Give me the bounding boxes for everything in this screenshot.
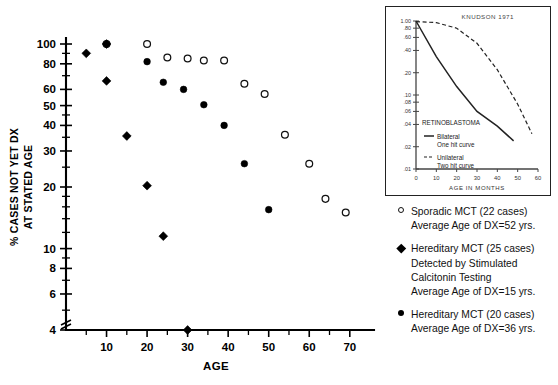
data-point-hereditary-stimulated	[102, 40, 111, 49]
y-tick-label: 50	[43, 100, 56, 112]
inset-y-tick-label: .60	[404, 34, 412, 40]
inset-y-tick-label: .02	[404, 144, 412, 150]
inset-x-tick-label: 30	[474, 175, 480, 181]
main-plot-group: 1008060504030201086410203040506070AGE% C…	[8, 38, 374, 372]
main-scatter-chart: 1008060504030201086410203040506070AGE% C…	[0, 0, 380, 385]
x-tick-label: 70	[343, 341, 356, 353]
legend-label-hereditary-stimulated: Hereditary MCT (25 cases) Detected by St…	[411, 242, 535, 299]
data-point-sporadic	[144, 41, 151, 48]
inset-legend-bilateral: Bilateral	[437, 133, 460, 140]
y-axis-title-line1: % CASES NOT YET DX	[8, 128, 20, 246]
main-chart-svg: 1008060504030201086410203040506070AGE% C…	[0, 0, 380, 385]
data-point-sporadic	[342, 209, 349, 216]
data-point-hereditary	[221, 122, 228, 129]
data-point-sporadic	[282, 131, 289, 138]
x-tick-label: 40	[222, 341, 235, 353]
inset-title: KNUDSON 1971	[462, 13, 514, 20]
data-point-sporadic	[200, 57, 207, 64]
data-point-hereditary-stimulated	[82, 49, 91, 58]
data-point-hereditary-stimulated	[183, 326, 192, 335]
y-tick-label: 80	[43, 58, 56, 70]
inset-y-tick-label: .06	[404, 108, 412, 114]
data-point-hereditary	[201, 101, 208, 108]
y-tick-label: 20	[43, 181, 56, 193]
legend-line: Hereditary MCT (20 cases)	[411, 308, 535, 322]
inset-y-tick-label: 1.00	[401, 18, 412, 24]
legend-marker-filled-circle-icon	[398, 308, 411, 316]
inset-chart-svg: KNUDSON 19711.00.80.60.40.20.10.08.06.04…	[386, 7, 549, 194]
data-point-sporadic	[241, 80, 248, 87]
data-point-sporadic	[306, 160, 313, 167]
data-point-hereditary	[180, 86, 187, 93]
y-tick-label: 6	[50, 288, 56, 300]
y-tick-label: 8	[50, 262, 57, 274]
x-tick-label: 50	[262, 341, 275, 353]
legend-line: Average Age of DX=52 yrs.	[411, 219, 535, 233]
data-point-sporadic	[164, 54, 171, 61]
x-tick-label: 60	[303, 341, 316, 353]
y-tick-label: 40	[43, 119, 56, 131]
data-point-hereditary-stimulated	[122, 132, 131, 141]
x-tick-label: 20	[141, 341, 154, 353]
data-point-hereditary-stimulated	[159, 232, 168, 241]
data-point-sporadic	[221, 57, 228, 64]
inset-curve-unilateral	[416, 22, 532, 134]
data-point-hereditary	[265, 206, 272, 213]
data-point-hereditary	[144, 58, 151, 65]
x-axis-title: AGE	[203, 360, 229, 372]
data-point-hereditary-stimulated	[102, 77, 111, 86]
y-tick-label: 60	[43, 83, 56, 95]
data-point-hereditary	[241, 160, 248, 167]
inset-y-tick-label: .08	[404, 99, 412, 105]
inset-legend-unilateral: Unilateral	[437, 154, 464, 161]
inset-x-tick-label: 40	[494, 175, 500, 181]
legend-marker-open-circle-icon	[398, 205, 411, 213]
legend-entry-hereditary: Hereditary MCT (20 cases) Average Age of…	[398, 308, 558, 336]
inset-x-tick-label: 60	[535, 175, 541, 181]
data-point-sporadic	[261, 91, 268, 98]
inset-y-tick-label: .10	[404, 92, 412, 98]
legend-line: Calcitonin Testing	[411, 271, 535, 285]
inset-x-tick-label: 0	[414, 175, 417, 181]
legend-entry-hereditary-stimulated: Hereditary MCT (25 cases) Detected by St…	[398, 242, 558, 299]
x-tick-label: 10	[100, 341, 113, 353]
chart-legend: Sporadic MCT (22 cases) Average Age of D…	[398, 205, 558, 346]
legend-line: Average Age of DX=36 yrs.	[411, 322, 535, 336]
legend-entry-sporadic: Sporadic MCT (22 cases) Average Age of D…	[398, 205, 558, 233]
inset-x-axis-title: AGE IN MONTHS	[449, 185, 505, 191]
legend-line: Hereditary MCT (25 cases)	[411, 242, 535, 256]
inset-y-tick-label: .40	[404, 47, 412, 53]
inset-x-tick-label: 10	[433, 175, 439, 181]
data-point-sporadic	[184, 55, 191, 62]
inset-legend-bilateral-sub: One hit curve	[437, 141, 475, 148]
inset-x-tick-label: 50	[514, 175, 520, 181]
inset-y-tick-label: .80	[404, 25, 412, 31]
legend-line: Average Age of DX=15 yrs.	[411, 285, 535, 299]
legend-label-sporadic: Sporadic MCT (22 cases) Average Age of D…	[411, 205, 535, 233]
y-tick-label: 100	[37, 38, 56, 50]
inset-x-tick-label: 20	[453, 175, 459, 181]
y-tick-label: 30	[43, 145, 56, 157]
inset-legend-unilateral-sub: Two hit curve	[437, 162, 475, 169]
data-point-hereditary-stimulated	[143, 181, 152, 190]
legend-line: Sporadic MCT (22 cases)	[411, 205, 535, 219]
y-tick-label: 10	[43, 243, 56, 255]
inset-y-tick-label: .01	[404, 166, 412, 172]
legend-label-hereditary: Hereditary MCT (20 cases) Average Age of…	[411, 308, 535, 336]
y-tick-label: 4	[50, 324, 57, 336]
inset-plot-group: KNUDSON 19711.00.80.60.40.20.10.08.06.04…	[401, 13, 542, 191]
y-axis-title-line2: AT STATED AGE	[22, 145, 34, 229]
x-tick-label: 30	[181, 341, 194, 353]
data-point-hereditary	[160, 79, 167, 86]
data-point-sporadic	[322, 195, 329, 202]
inset-y-tick-label: .04	[404, 121, 412, 127]
legend-marker-filled-diamond-icon	[398, 242, 411, 252]
legend-line: Detected by Stimulated	[411, 257, 535, 271]
inset-y-tick-label: .20	[404, 70, 412, 76]
inset-legend-subject: RETINOBLASTOMA	[422, 119, 481, 126]
inset-knudson-chart: KNUDSON 19711.00.80.60.40.20.10.08.06.04…	[385, 6, 551, 196]
figure-root: 1008060504030201086410203040506070AGE% C…	[0, 0, 558, 385]
